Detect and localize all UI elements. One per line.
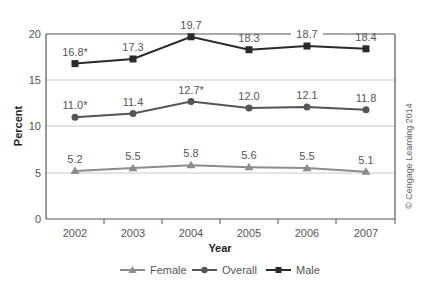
data-label: 18.7	[296, 28, 317, 40]
data-label: 19.7	[180, 19, 201, 31]
square-marker-icon	[188, 33, 195, 40]
data-label: 11.8	[356, 92, 377, 104]
data-label: 16.8*	[62, 46, 88, 58]
y-axis-title: Percent	[12, 105, 24, 146]
circle-marker-icon	[188, 98, 195, 105]
square-marker-icon	[130, 55, 137, 62]
legend-item-male: Male	[266, 264, 320, 276]
x-tick-2002: 2002	[63, 227, 87, 239]
series-female: 5.25.55.85.65.55.1	[67, 147, 373, 174]
square-marker-icon	[276, 267, 282, 273]
circle-marker-icon	[246, 105, 253, 112]
legend-label-overall: Overall	[222, 264, 257, 276]
data-label: 12.0	[238, 90, 259, 102]
square-marker-icon	[72, 60, 79, 67]
x-tick-2003: 2003	[121, 227, 145, 239]
square-marker-icon	[304, 43, 311, 50]
y-tick-5: 5	[35, 167, 41, 179]
circle-marker-icon	[130, 110, 137, 117]
x-tick-labels: 2002 2003 2004 2005 2006 2007	[63, 227, 378, 239]
circle-marker-icon	[363, 106, 370, 113]
circle-marker-icon	[72, 114, 79, 121]
circle-marker-icon	[304, 104, 311, 111]
data-label: 18.3	[238, 32, 259, 44]
data-label: 5.8	[183, 147, 198, 159]
x-tick-2004: 2004	[179, 227, 203, 239]
square-marker-icon	[363, 45, 370, 52]
data-label: 5.6	[241, 149, 256, 161]
series-line	[75, 102, 366, 118]
series-line	[75, 165, 366, 172]
x-tick-2005: 2005	[237, 227, 261, 239]
y-tick-20: 20	[29, 28, 41, 40]
data-label: 12.1	[296, 89, 317, 101]
data-label: 17.3	[122, 41, 143, 53]
data-label: 11.0*	[63, 99, 89, 111]
data-label: 5.2	[67, 153, 82, 165]
y-tick-labels: 0 5 10 15 20	[29, 28, 41, 225]
data-label: 12.7*	[178, 84, 204, 96]
square-marker-icon	[246, 46, 253, 53]
legend: Female Overall Male	[120, 264, 320, 276]
y-tick-15: 15	[29, 74, 41, 86]
data-label: 5.5	[299, 150, 314, 162]
y-tick-0: 0	[35, 213, 41, 225]
x-tick-2006: 2006	[295, 227, 319, 239]
legend-item-female: Female	[120, 264, 187, 276]
legend-label-male: Male	[296, 264, 320, 276]
series-line	[75, 37, 366, 64]
copyright-credit: © Cengage Learning 2014	[404, 103, 414, 209]
circle-marker-icon	[201, 267, 207, 273]
gridlines	[46, 80, 395, 173]
data-label: 5.5	[125, 150, 140, 162]
series-overall: 11.0*11.412.7*12.012.111.8	[63, 84, 377, 121]
legend-item-overall: Overall	[192, 264, 257, 276]
data-label: 11.4	[123, 96, 144, 108]
x-tick-2007: 2007	[354, 227, 378, 239]
x-tick-marks	[104, 219, 395, 224]
series-male: 16.8*17.319.718.318.718.4	[62, 18, 377, 67]
data-label: 18.4	[355, 31, 376, 43]
line-chart: 0 5 10 15 20 2002 2003 2004 2005 2006 20…	[0, 0, 427, 285]
data-label: 5.1	[358, 154, 373, 166]
series-layer: 5.25.55.85.65.55.111.0*11.412.7*12.012.1…	[62, 18, 377, 175]
x-axis-title: Year	[208, 242, 232, 254]
legend-label-female: Female	[150, 264, 187, 276]
y-tick-10: 10	[29, 120, 41, 132]
